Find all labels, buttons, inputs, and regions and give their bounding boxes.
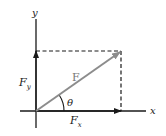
fy-label-sub: y — [26, 83, 32, 91]
angle-theta-label: θ — [67, 97, 73, 108]
fx-label: Fx — [69, 114, 82, 129]
x-axis-label: x — [150, 105, 156, 116]
fy-label: Fy — [18, 76, 32, 91]
fx-label-sub: x — [78, 121, 82, 129]
force-label: F — [72, 71, 80, 84]
fy-label-main: F — [18, 76, 27, 89]
y-axis-label: y — [31, 7, 38, 18]
angle-arc — [60, 96, 65, 112]
fx-label-main: F — [69, 114, 78, 127]
force-component-diagram: y x F Fy Fx θ — [0, 0, 166, 136]
